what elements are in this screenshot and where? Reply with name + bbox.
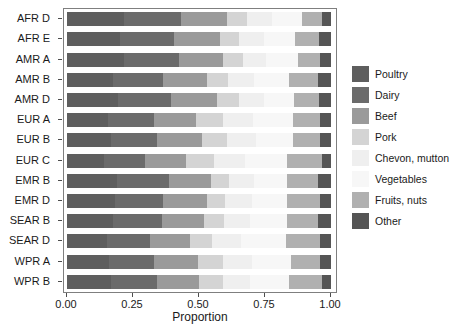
legend-item[interactable]: Poultry — [352, 64, 452, 85]
bar-segment — [179, 53, 223, 67]
bar-segment — [322, 154, 331, 168]
bar-segment — [319, 93, 331, 107]
bar-row — [67, 255, 331, 269]
bar-segment — [67, 154, 104, 168]
y-axis-tick-mark — [58, 119, 62, 120]
legend-item[interactable]: Pork — [352, 127, 452, 148]
plot-panel — [63, 8, 337, 293]
x-axis-tick-mark — [132, 293, 133, 297]
bar-segment — [199, 275, 223, 289]
bar-segment — [157, 275, 199, 289]
y-axis-tick-label: WPR A — [0, 256, 50, 266]
legend-label: Chevon, mutton — [375, 152, 449, 164]
y-axis-tick-mark — [58, 59, 62, 60]
bar-segment — [319, 32, 331, 46]
y-axis-tick-label: EUR A — [0, 114, 50, 124]
legend-item[interactable]: Beef — [352, 106, 452, 127]
bar-segment — [67, 194, 115, 208]
bar-segment — [293, 113, 321, 127]
y-axis-tick-mark — [58, 160, 62, 161]
bar-segment — [264, 93, 294, 107]
legend-item[interactable]: Fruits, nuts — [352, 190, 452, 211]
y-axis-tick-label: WPR B — [0, 276, 50, 286]
bar-segment — [291, 255, 320, 269]
legend-label: Vegetables — [375, 173, 427, 185]
bar-segment — [202, 133, 227, 147]
bar-row — [67, 12, 331, 26]
y-axis-tick-label: SEAR D — [0, 235, 50, 245]
bar-segment — [289, 73, 318, 87]
bar-segment — [220, 32, 238, 46]
bar-segment — [67, 93, 118, 107]
bar-segment — [254, 73, 288, 87]
legend-swatch-icon — [352, 213, 369, 229]
bar-segment — [223, 255, 252, 269]
bar-segment — [318, 73, 331, 87]
bar-segment — [320, 255, 331, 269]
x-axis-tick-label: 1.00 — [310, 298, 350, 310]
x-axis-tick-label: 0.25 — [112, 298, 152, 310]
bar-segment — [113, 214, 162, 228]
legend-label: Other — [375, 215, 401, 227]
bar-segment — [252, 194, 288, 208]
bar-segment — [228, 73, 254, 87]
legend-item[interactable]: Dairy — [352, 85, 452, 106]
bar-row — [67, 93, 331, 107]
bar-segment — [229, 174, 254, 188]
x-axis-title: Proportion — [63, 310, 337, 324]
y-axis-tick-label: AFR E — [0, 33, 50, 43]
bar-segment — [266, 53, 298, 67]
bar-segment — [169, 174, 211, 188]
bar-segment — [320, 194, 331, 208]
bar-segment — [145, 154, 186, 168]
bar-segment — [287, 194, 320, 208]
bar-segment — [286, 234, 320, 248]
y-axis-tick-mark — [58, 79, 62, 80]
bar-row — [67, 133, 331, 147]
bar-segment — [109, 255, 154, 269]
bar-segment — [181, 12, 227, 26]
legend-label: Beef — [375, 110, 397, 122]
bar-row — [67, 113, 331, 127]
bar-segment — [163, 194, 207, 208]
bar-segment — [107, 234, 151, 248]
bar-segment — [295, 32, 319, 46]
legend-label: Poultry — [375, 68, 408, 80]
bar-segment — [163, 73, 207, 87]
bar-segment — [320, 234, 331, 248]
bar-segment — [287, 174, 317, 188]
y-axis-tick-label: AMR D — [0, 94, 50, 104]
bar-row — [67, 174, 331, 188]
bar-segment — [211, 174, 229, 188]
bar-segment — [67, 255, 109, 269]
bar-segment — [124, 53, 179, 67]
bar-segment — [104, 154, 145, 168]
bar-segment — [239, 93, 264, 107]
bar-segment — [225, 194, 251, 208]
y-axis-tick-label: EUR B — [0, 134, 50, 144]
bar-segment — [294, 93, 319, 107]
legend-swatch-icon — [352, 192, 369, 208]
bar-segment — [207, 73, 228, 87]
bar-segment — [245, 154, 287, 168]
legend-item[interactable]: Other — [352, 211, 452, 232]
bar-segment — [196, 113, 222, 127]
y-axis-tick-label: AMR A — [0, 54, 50, 64]
bar-segment — [217, 93, 238, 107]
bar-segment — [67, 73, 113, 87]
bar-segment — [204, 214, 224, 228]
bar-segment — [293, 133, 321, 147]
bar-segment — [223, 113, 253, 127]
bar-segment — [243, 53, 267, 67]
bar-segment — [250, 214, 287, 228]
y-axis-tick-mark — [58, 99, 62, 100]
x-axis-tick-label: 0.75 — [244, 298, 284, 310]
bar-segment — [67, 275, 111, 289]
bar-segment — [250, 275, 288, 289]
bar-row — [67, 53, 331, 67]
legend-item[interactable]: Vegetables — [352, 169, 452, 190]
bar-segment — [150, 234, 190, 248]
bar-segment — [67, 133, 111, 147]
bar-segment — [154, 113, 196, 127]
legend-item[interactable]: Chevon, mutton — [352, 148, 452, 169]
